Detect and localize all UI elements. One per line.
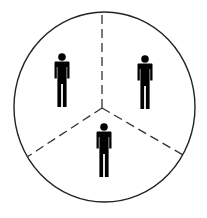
divider-bottom-left [27, 108, 102, 157]
divider-bottom-right [102, 108, 183, 155]
person-icon [55, 53, 70, 107]
three-sector-circle-diagram [0, 0, 207, 218]
person-icon [138, 55, 153, 109]
outer-circle [14, 12, 195, 202]
person-icon [97, 123, 112, 177]
